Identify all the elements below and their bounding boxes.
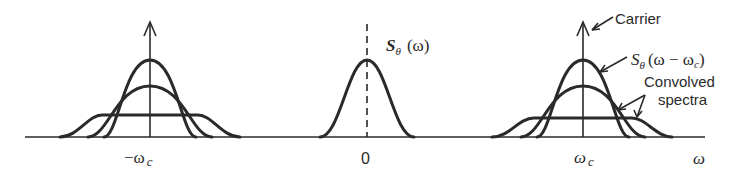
carrier-leader-line [592,17,613,30]
shifted-spectrum-label: Sθ(ω − ωc) [631,50,705,71]
right-broad-spectrum [492,118,672,137]
tick-label-wc: ωc [574,148,594,169]
shifted-spectrum-leader-line [600,57,627,72]
left-spectrum-group [60,22,240,137]
convolved-label-line2: spectra [658,91,708,108]
center-spectrum-label: Sθ(ω) [386,36,429,57]
carrier-label: Carrier [615,10,661,27]
center-spectrum-group [320,24,414,137]
axis-label-omega: ω [693,149,705,168]
tick-label-neg-wc: −ωc [124,148,153,169]
tick-label-zero: 0 [361,150,370,167]
convolved-label-line1: Convolved [644,73,715,90]
spectrum-diagram: −ωc 0 ωc ω Sθ(ω) Carrier Sθ(ω − ωc) Conv… [0,0,751,173]
